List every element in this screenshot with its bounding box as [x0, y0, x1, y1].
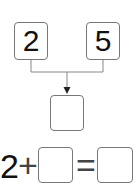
equals-sign: =: [76, 148, 96, 182]
equation-result-box[interactable]: [97, 147, 133, 183]
result-box[interactable]: [50, 95, 84, 131]
equation-blank-box[interactable]: [38, 147, 73, 183]
number-right: 5: [95, 26, 112, 56]
number-box-left: 2: [14, 22, 48, 60]
equation-first-operand: 2: [0, 149, 19, 183]
number-left: 2: [23, 26, 40, 56]
number-box-right: 5: [86, 22, 120, 60]
plus-sign: +: [18, 148, 38, 182]
arrow-down-icon: [64, 87, 71, 94]
